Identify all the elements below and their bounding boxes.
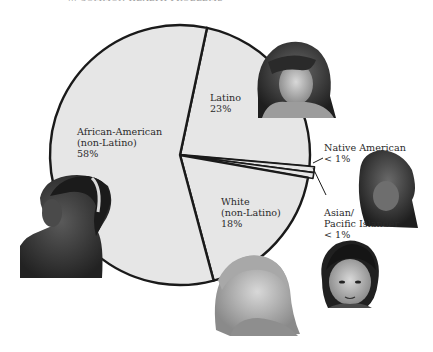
white-child-photo xyxy=(215,255,300,336)
label-white: White (non-Latino) 18% xyxy=(221,196,281,229)
label-african-american-line1: African-American xyxy=(77,126,162,137)
label-asian-line2: Pacific Islander xyxy=(324,218,399,229)
label-latino-line1: Latino xyxy=(210,92,241,103)
label-african-american-value: 58% xyxy=(77,148,162,159)
label-african-american: African-American (non-Latino) 58% xyxy=(77,126,162,159)
pie-chart xyxy=(0,0,433,352)
label-native-american-line1: Native American xyxy=(324,142,406,153)
label-white-value: 18% xyxy=(221,218,281,229)
label-latino: Latino 23% xyxy=(210,92,241,114)
label-latino-value: 23% xyxy=(210,103,241,114)
label-white-line2: (non-Latino) xyxy=(221,207,281,218)
label-white-line1: White xyxy=(221,196,281,207)
asian-child-photo xyxy=(321,240,379,308)
label-asian-line1: Asian/ xyxy=(324,207,399,218)
label-native-american: Native American < 1% xyxy=(324,142,406,164)
leader-line-native-american xyxy=(313,158,323,163)
latino-child-photo xyxy=(257,42,336,118)
label-african-american-line2: (non-Latino) xyxy=(77,137,162,148)
label-native-american-value: < 1% xyxy=(324,153,406,164)
african-american-child-photo xyxy=(20,175,111,278)
label-asian-value: < 1% xyxy=(324,229,399,240)
label-asian: Asian/ Pacific Islander < 1% xyxy=(324,207,399,240)
leader-line-asian xyxy=(313,168,326,195)
